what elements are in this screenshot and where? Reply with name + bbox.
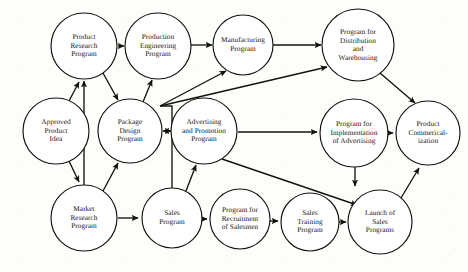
edge-product-research-to-package-design (103, 73, 118, 100)
node-circle-launch_sales_programs[interactable] (348, 190, 412, 254)
edge-market-research-to-package-design (103, 163, 118, 191)
node-circle-distribution_warehousing[interactable] (322, 9, 394, 81)
node-circle-market_research[interactable] (51, 185, 117, 251)
edge-package-design-to-production-engineering (143, 80, 152, 102)
edge-approved-idea-to-market-research (69, 161, 79, 182)
node-circle-sales_training[interactable] (281, 193, 339, 251)
node-circle-manufacturing[interactable] (213, 15, 273, 75)
diagram-canvas (0, 0, 468, 272)
node-circle-sales_program[interactable] (142, 188, 202, 248)
node-circle-approved_product_idea[interactable] (23, 98, 89, 164)
node-circle-package_design[interactable] (98, 99, 162, 163)
edge-sales-program-junction-riser (160, 106, 172, 188)
edge-sales-program-to-advertising (186, 165, 196, 191)
node-circle-product_research[interactable] (51, 13, 117, 79)
node-circle-recruitment_salesmen[interactable] (210, 189, 270, 249)
node-circle-implementation_advertising[interactable] (320, 99, 388, 167)
node-circle-product_commercialization[interactable] (396, 101, 460, 165)
edge-approved-idea-to-product-research (69, 82, 79, 101)
edge-launch-to-commercialization (401, 168, 419, 198)
node-circle-production_engineering[interactable] (125, 13, 191, 79)
network-diagram: Approved Product IdeaProduct Research Pr… (0, 0, 468, 272)
node-circle-advertising_promotion[interactable] (171, 98, 237, 164)
edge-distribution-to-commercialization (380, 73, 415, 103)
